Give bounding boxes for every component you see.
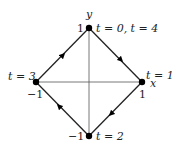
time-label-left: t = 3 xyxy=(8,70,36,83)
coord-label-top: 1 xyxy=(77,22,84,35)
vertex-top xyxy=(86,25,92,31)
diamond-path-diagram: y x 1 1 −1 −1 t = 0, t = 4 t = 1 t = 2 t… xyxy=(0,0,177,151)
time-label-top: t = 0, t = 4 xyxy=(96,22,158,35)
vertex-bottom xyxy=(86,133,92,139)
edge-top-right xyxy=(89,28,142,82)
coord-label-right: 1 xyxy=(139,88,146,101)
edge-right-bottom xyxy=(89,82,142,136)
time-label-right: t = 1 xyxy=(146,69,174,82)
edge-left-top xyxy=(36,28,89,82)
y-axis-label: y xyxy=(85,8,93,21)
coord-label-left: −1 xyxy=(27,88,43,101)
time-label-bottom: t = 2 xyxy=(96,130,124,143)
vertex-right xyxy=(139,79,145,85)
coord-label-bottom: −1 xyxy=(68,130,84,143)
edge-bottom-left xyxy=(36,82,89,136)
